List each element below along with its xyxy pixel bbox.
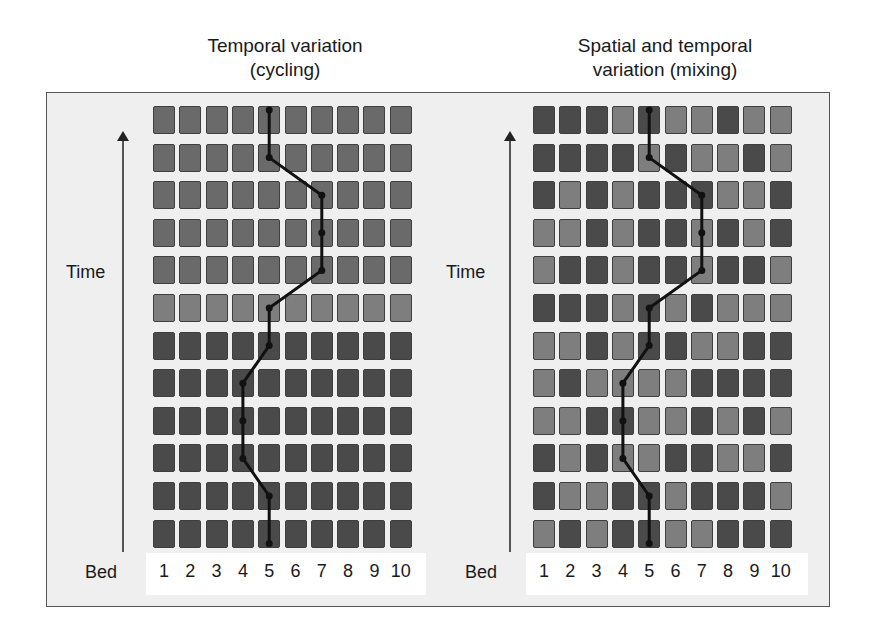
path-node bbox=[239, 455, 246, 462]
cycling-bed-number-band: 12345678910 bbox=[146, 553, 426, 595]
mixing-panel: Time 12345678910 Bed bbox=[437, 93, 829, 606]
diagram-frame: Time 12345678910 Bed Time 12345678910 Be… bbox=[46, 92, 830, 607]
path-node bbox=[318, 229, 325, 236]
bed-number: 2 bbox=[177, 561, 203, 582]
bed-number: 5 bbox=[636, 561, 662, 582]
bed-number: 8 bbox=[715, 561, 741, 582]
bed-number: 2 bbox=[557, 561, 583, 582]
mixing-panel-title: Spatial and temporal variation (mixing) bbox=[520, 34, 810, 82]
time-axis-label: Time bbox=[446, 262, 485, 283]
bed-number: 1 bbox=[151, 561, 177, 582]
bed-number: 6 bbox=[283, 561, 309, 582]
path-node bbox=[239, 380, 246, 387]
path-node bbox=[266, 493, 273, 500]
path-node bbox=[318, 267, 325, 274]
trajectory-path bbox=[533, 106, 803, 566]
time-arrow-icon bbox=[509, 140, 511, 552]
path-node bbox=[266, 107, 273, 114]
path-node bbox=[698, 229, 705, 236]
bed-number: 7 bbox=[689, 561, 715, 582]
path-node bbox=[318, 192, 325, 199]
cycling-title-line1: Temporal variation bbox=[150, 34, 420, 58]
bed-number: 1 bbox=[531, 561, 557, 582]
cycling-panel: Time 12345678910 Bed bbox=[47, 93, 437, 606]
time-axis-label: Time bbox=[66, 262, 105, 283]
bed-number: 9 bbox=[741, 561, 767, 582]
bed-number: 7 bbox=[309, 561, 335, 582]
path-node bbox=[646, 305, 653, 312]
bed-axis-label: Bed bbox=[85, 562, 117, 583]
cycling-panel-title: Temporal variation (cycling) bbox=[150, 34, 420, 82]
path-node bbox=[646, 342, 653, 349]
bed-number: 3 bbox=[584, 561, 610, 582]
mixing-title-line1: Spatial and temporal bbox=[520, 34, 810, 58]
path-node bbox=[646, 540, 653, 547]
path-node bbox=[266, 154, 273, 161]
mixing-bed-number-band: 12345678910 bbox=[526, 553, 808, 595]
bed-number: 4 bbox=[230, 561, 256, 582]
time-arrow-icon bbox=[122, 140, 124, 552]
bed-number: 8 bbox=[335, 561, 361, 582]
path-node bbox=[266, 305, 273, 312]
path-node bbox=[698, 192, 705, 199]
path-node bbox=[646, 493, 653, 500]
bed-number: 4 bbox=[610, 561, 636, 582]
path-node bbox=[646, 107, 653, 114]
path-node bbox=[646, 154, 653, 161]
path-node bbox=[239, 417, 246, 424]
cycling-title-line2: (cycling) bbox=[150, 58, 420, 82]
path-node bbox=[619, 455, 626, 462]
bed-number: 3 bbox=[204, 561, 230, 582]
bed-number: 9 bbox=[361, 561, 387, 582]
path-node bbox=[266, 342, 273, 349]
mixing-title-line2: variation (mixing) bbox=[520, 58, 810, 82]
path-node bbox=[619, 380, 626, 387]
path-node bbox=[698, 267, 705, 274]
bed-number: 10 bbox=[388, 561, 414, 582]
bed-number: 10 bbox=[768, 561, 794, 582]
bed-number: 6 bbox=[663, 561, 689, 582]
trajectory-path bbox=[153, 106, 423, 566]
path-node bbox=[266, 540, 273, 547]
path-node bbox=[619, 417, 626, 424]
bed-number: 5 bbox=[256, 561, 282, 582]
bed-axis-label: Bed bbox=[465, 562, 497, 583]
